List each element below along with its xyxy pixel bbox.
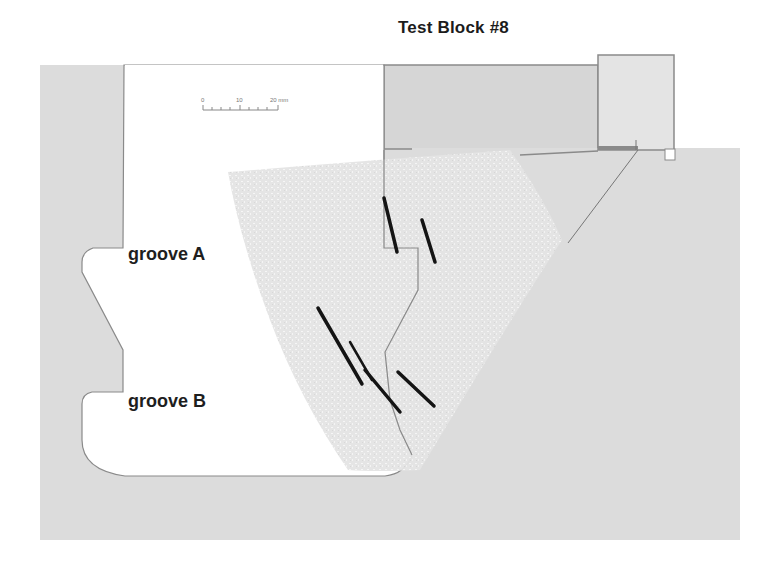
groove-a-label: groove A [128,244,205,265]
groove-b-label: groove B [128,391,206,412]
cross-section-drawing [0,0,775,561]
test-block-figure: Test Block #8 groove A groove B 0 10 20 … [0,0,775,561]
scale-tick-0: 0 [201,97,204,103]
scale-tick-10: 10 [236,97,243,103]
scale-tick-20: 20 mm [270,97,288,103]
figure-title: Test Block #8 [398,18,509,38]
